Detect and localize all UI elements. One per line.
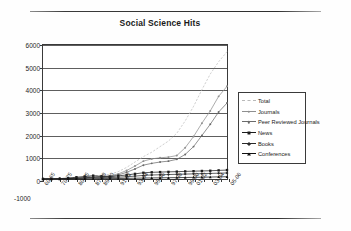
legend-marker-icon bbox=[242, 129, 256, 138]
x-tick-label: 05-06 bbox=[229, 171, 242, 186]
y-tick-label: 5000 bbox=[26, 64, 40, 71]
legend-label: News bbox=[258, 130, 272, 136]
legend-label: Conferences bbox=[258, 151, 290, 157]
chart-title: Social Science Hits bbox=[60, 18, 260, 28]
legend-marker-icon bbox=[242, 107, 256, 116]
legend-item-peer-reviewed-journals[interactable]: Peer Reviewed Journals bbox=[242, 117, 303, 128]
y-tick-label: 4000 bbox=[26, 87, 40, 94]
legend-item-news[interactable]: News bbox=[242, 128, 303, 139]
page-rule-bottom bbox=[30, 218, 321, 219]
y-tick-label: 1000 bbox=[26, 155, 40, 162]
legend-item-books[interactable]: Books bbox=[242, 138, 303, 149]
legend-marker-icon bbox=[242, 118, 256, 127]
legend-marker-icon bbox=[242, 97, 256, 106]
series-total bbox=[43, 52, 227, 179]
series-layer bbox=[43, 45, 227, 179]
y-tick-label: 6000 bbox=[26, 42, 40, 49]
y-tick-label: 3000 bbox=[26, 110, 40, 117]
legend-item-conferences[interactable]: Conferences bbox=[242, 149, 303, 160]
plot-area: 6000500040003000200010000 60-6570-7580-8… bbox=[42, 44, 228, 180]
y-tick-label: 2000 bbox=[26, 132, 40, 139]
chart-legend: TotalJournalsPeer Reviewed JournalsNewsB… bbox=[238, 92, 306, 164]
page-rule-top bbox=[30, 11, 321, 12]
legend-marker-icon bbox=[242, 150, 256, 159]
legend-label: Peer Reviewed Journals bbox=[258, 119, 320, 125]
legend-item-journals[interactable]: Journals bbox=[242, 107, 303, 118]
document-page: Social Science Hits Number of Hits -1000… bbox=[0, 0, 351, 231]
legend-label: Journals bbox=[258, 109, 280, 115]
legend-label: Total bbox=[258, 98, 270, 104]
y-tick-label: 0 bbox=[36, 178, 40, 185]
series-peer-reviewed-journals bbox=[42, 102, 228, 180]
legend-marker-icon bbox=[242, 139, 256, 148]
legend-item-total[interactable]: Total bbox=[242, 96, 303, 107]
legend-label: Books bbox=[258, 141, 274, 147]
y-axis-negative-label: -1000 bbox=[14, 195, 31, 202]
social-science-hits-chart: Social Science Hits Number of Hits -1000… bbox=[0, 14, 351, 214]
series-journals bbox=[42, 85, 228, 180]
